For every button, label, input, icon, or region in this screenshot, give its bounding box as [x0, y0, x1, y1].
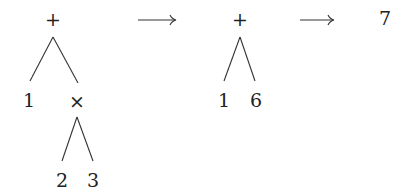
stage2-edge-root-left — [224, 37, 240, 81]
stage1-leaf-3: 3 — [87, 169, 99, 191]
stage2-tree: + 1 6 — [218, 8, 262, 111]
stage1-tree: + 1 × 2 3 — [23, 8, 99, 191]
stage1-times-node: × — [69, 90, 85, 112]
stage1-edge-root-left — [30, 37, 53, 81]
stage1-root-plus: + — [45, 8, 61, 30]
stage1-edge-root-right — [53, 37, 78, 83]
stage2-leaf-1: 1 — [218, 89, 230, 111]
stage2-edge-root-right — [240, 37, 255, 81]
stage3-result-7: 7 — [379, 7, 391, 29]
arrow-2 — [300, 15, 334, 25]
stage1-edge-times-left — [62, 117, 77, 161]
expression-tree-diagram: + 1 × 2 3 + 1 6 7 — [0, 0, 409, 194]
stage2-leaf-6: 6 — [250, 89, 262, 111]
stage2-root-plus: + — [232, 8, 248, 30]
stage1-leaf-1: 1 — [23, 89, 35, 111]
stage1-edge-times-right — [77, 117, 93, 161]
arrow-1 — [138, 15, 176, 25]
stage1-leaf-2: 2 — [56, 169, 68, 191]
